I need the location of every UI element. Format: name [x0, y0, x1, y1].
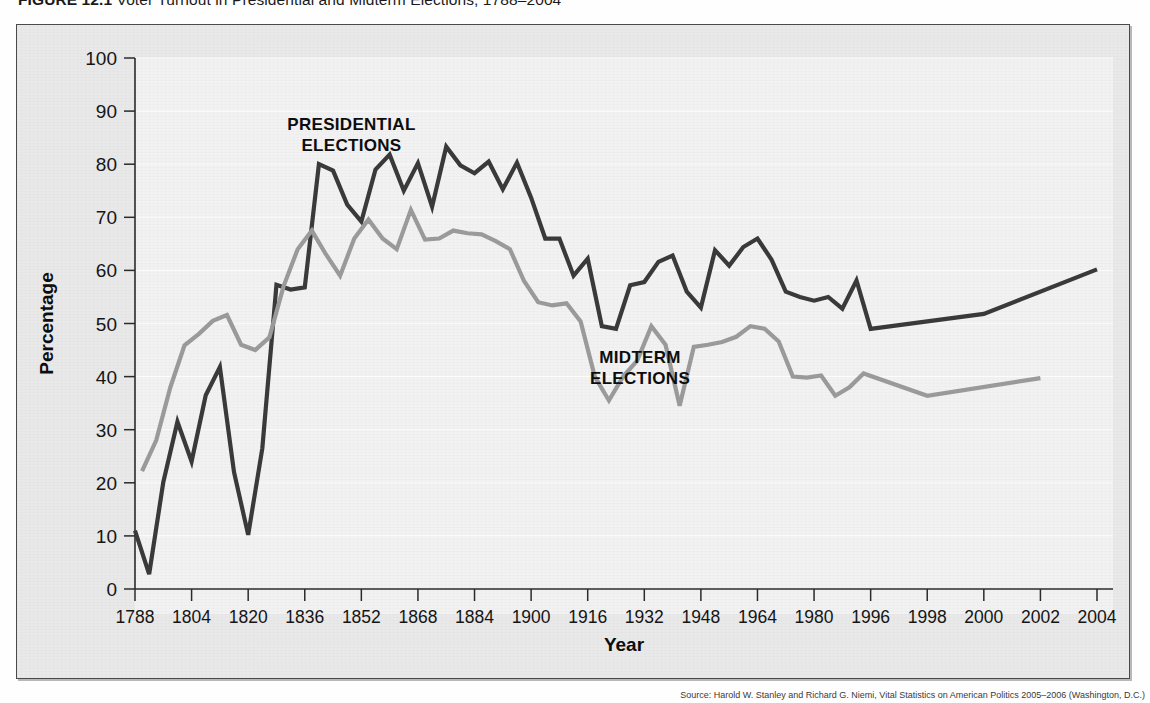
figure-number: FIGURE 12.1	[18, 0, 112, 8]
y-axis-title: Percentage	[36, 272, 57, 374]
y-axis-tick-label: 60	[96, 260, 117, 281]
x-axis-tick-label: 1884	[455, 607, 494, 627]
x-axis-tick-label: 2002	[1021, 607, 1060, 627]
figure-caption: FIGURE 12.1 Voter Turnout in Presidentia…	[18, 0, 1138, 13]
x-axis-tick-label: 2000	[964, 607, 1003, 627]
y-axis-tick-label: 10	[96, 526, 117, 547]
figure-frame: 0102030405060708090100178818041820183618…	[16, 24, 1130, 679]
figure-title: Voter Turnout in Presidential and Midter…	[117, 0, 562, 8]
y-axis-tick-label: 80	[96, 154, 117, 175]
y-axis-tick-label: 0	[106, 579, 117, 600]
x-axis-tick-label: 2004	[1078, 607, 1117, 627]
x-axis-tick-label: 1868	[398, 607, 437, 627]
x-axis-tick-label: 1980	[795, 607, 834, 627]
series-annotation-label: PRESIDENTIAL	[287, 115, 415, 134]
x-axis-tick-label: 1836	[285, 607, 324, 627]
x-axis-tick-label: 1820	[229, 607, 268, 627]
x-axis-tick-label: 1916	[568, 607, 607, 627]
x-axis-tick-label: 1998	[908, 607, 947, 627]
y-axis-tick-label: 40	[96, 367, 117, 388]
x-axis-tick-label: 1804	[172, 607, 211, 627]
x-axis-tick-label: 1852	[342, 607, 381, 627]
y-axis-tick-label: 90	[96, 101, 117, 122]
x-axis-title: Year	[604, 634, 645, 655]
x-axis-tick-label: 1900	[512, 607, 551, 627]
x-axis-tick-label: 1948	[681, 607, 720, 627]
x-axis-tick-label: 1996	[851, 607, 890, 627]
x-axis-tick-label: 1932	[625, 607, 664, 627]
y-axis-tick-label: 50	[96, 314, 117, 335]
figure-page: FIGURE 12.1 Voter Turnout in Presidentia…	[0, 0, 1150, 703]
figure-source-note: Source: Harold W. Stanley and Richard G.…	[560, 690, 1145, 703]
x-axis-tick-label: 1964	[738, 607, 777, 627]
y-axis-tick-label: 30	[96, 420, 117, 441]
y-axis-tick-label: 20	[96, 473, 117, 494]
series-annotation-label: ELECTIONS	[301, 136, 401, 155]
y-axis-tick-label: 70	[96, 207, 117, 228]
voter-turnout-line-chart: 0102030405060708090100178818041820183618…	[17, 25, 1130, 679]
series-line-midterm-elections	[142, 210, 1040, 471]
y-axis-tick-label: 100	[85, 48, 117, 69]
x-axis-tick-label: 1788	[116, 607, 155, 627]
series-annotation-label: MIDTERM	[599, 348, 680, 367]
series-annotation-label: ELECTIONS	[590, 369, 690, 388]
